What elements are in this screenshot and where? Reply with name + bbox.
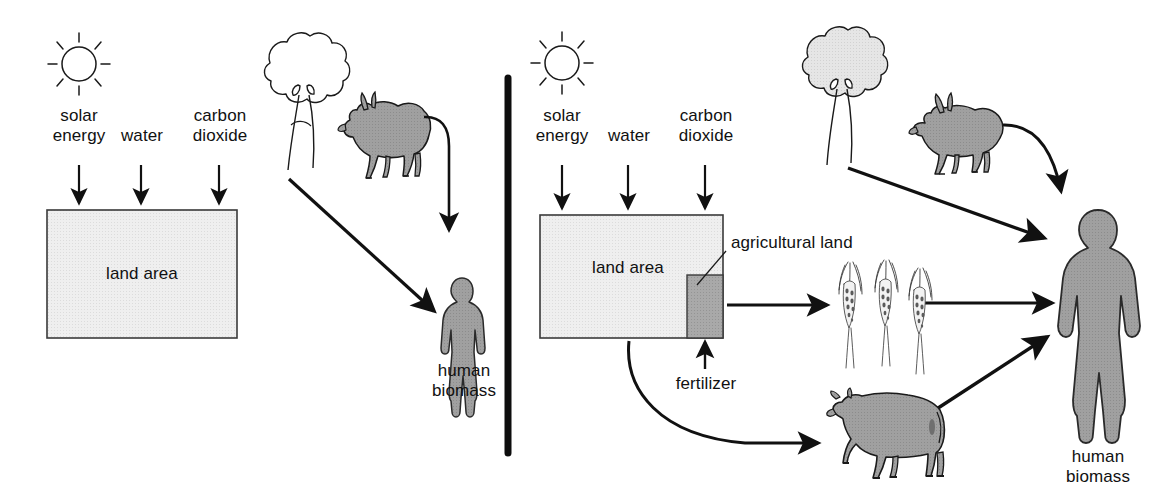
cow-icon xyxy=(827,388,945,478)
tree-icon-right xyxy=(802,27,887,165)
agricultural-land-rect xyxy=(687,275,723,338)
sun-icon xyxy=(48,33,110,95)
diagram-canvas: solar energy water carbon dioxide land a… xyxy=(0,0,1169,501)
label-agricultural-land: agricultural land xyxy=(731,233,891,253)
wheat-icon xyxy=(839,260,932,374)
label-human-biomass-right: human biomass xyxy=(1046,447,1150,487)
label-land-area-right: land area xyxy=(578,258,678,278)
human-figure-icon-right xyxy=(1058,210,1140,443)
label-human-biomass-left: human biomass xyxy=(412,361,516,401)
left-input-arrows xyxy=(79,165,219,203)
label-land-area-left: land area xyxy=(92,264,192,284)
label-carbon-dioxide-right: carbon dioxide xyxy=(660,106,752,146)
goat-icon xyxy=(338,92,431,178)
label-carbon-dioxide-left: carbon dioxide xyxy=(174,106,266,146)
diagram-graphics xyxy=(0,0,1169,501)
sun-icon-right xyxy=(531,32,593,94)
label-water-right: water xyxy=(587,126,671,146)
tree-icon xyxy=(264,33,349,170)
goat-to-human-arrow-right xyxy=(1003,125,1061,191)
right-input-arrows xyxy=(562,165,705,208)
tree-to-human-arrow-right xyxy=(848,168,1044,238)
label-fertilizer: fertilizer xyxy=(660,374,752,394)
label-water-left: water xyxy=(100,126,184,146)
cow-to-human-arrow xyxy=(932,337,1047,412)
tree-to-human-arrow xyxy=(289,179,434,311)
goat-icon-right xyxy=(909,93,1003,174)
